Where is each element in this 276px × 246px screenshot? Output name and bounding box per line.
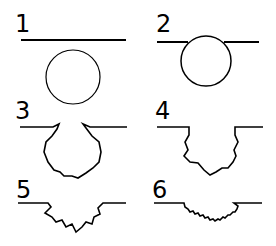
depression-shape <box>18 203 126 232</box>
circle-shape <box>46 50 100 104</box>
zigzag-shape <box>154 203 262 221</box>
pit-shape <box>20 124 127 178</box>
cavity-shape <box>157 127 263 175</box>
diagram-drawing <box>0 0 276 246</box>
circle-shape <box>181 36 231 86</box>
